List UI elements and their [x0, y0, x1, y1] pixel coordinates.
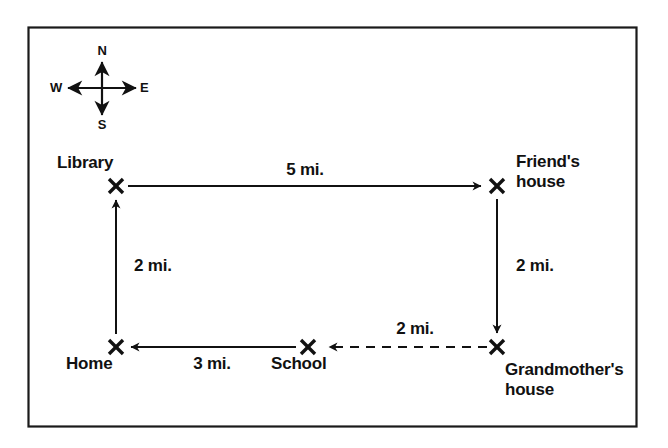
node-label-friends-house-line2: house [516, 172, 580, 192]
node-label-home: Home [66, 355, 112, 372]
node-label-friends-house: Friend's house [516, 152, 580, 192]
node-label-grandmother-house-line1: Grandmother's [505, 360, 624, 380]
distance-label-home-to-library: 2 mi. [134, 257, 172, 274]
distance-label-library-to-friends: 5 mi. [286, 161, 324, 178]
node-label-school: School [271, 355, 326, 372]
node-label-friends-house-line1: Friend's [516, 152, 580, 172]
node-label-grandmother-house: Grandmother's house [505, 360, 624, 400]
node-label-library: Library [57, 154, 113, 171]
diagram-figure: N S E W Library Friend's house Home Scho… [0, 0, 668, 448]
distance-label-grandmother-to-school: 2 mi. [396, 320, 434, 337]
distance-label-school-to-home: 3 mi. [193, 355, 231, 372]
compass-west-label: W [50, 81, 62, 94]
node-label-grandmother-house-line2: house [505, 380, 624, 400]
compass-north-label: N [97, 44, 106, 57]
distance-label-friends-to-grandmother: 2 mi. [516, 257, 554, 274]
compass-south-label: S [98, 118, 106, 131]
compass-east-label: E [140, 81, 148, 94]
